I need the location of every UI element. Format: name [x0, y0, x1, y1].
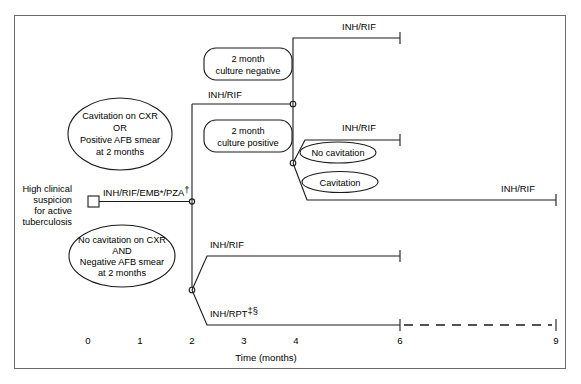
oval-cavitation-label: Cavitation — [320, 178, 361, 188]
axis-tick-1: 1 — [137, 335, 142, 346]
branch-lower-inh-rif-line — [192, 256, 400, 290]
branch-culture-negative-regimen-label: INH/RIF — [342, 21, 376, 32]
axis-title: Time (months) — [235, 352, 296, 363]
oval2-line2: AND — [112, 246, 132, 256]
upper-trunk-regimen-label: INH/RIF — [208, 89, 242, 100]
box-culture-negative-line1: 2 month — [231, 54, 264, 64]
branch-no-cavitation-regimen-label: INH/RIF — [342, 122, 376, 133]
initial-phase-regimen-label: INH/RIF/EMB*/PZA† — [103, 184, 189, 199]
start-label-line3: for active — [34, 206, 72, 216]
branch-lower-inh-rif-regimen-label: INH/RIF — [210, 239, 244, 250]
decision-oval-cavitation-positive-smear — [68, 98, 172, 170]
start-label-line4: tuberculosis — [22, 217, 72, 227]
box-culture-positive-line2: culture positive — [217, 138, 278, 148]
branch-cavitation-regimen-label: INH/RIF — [501, 183, 535, 194]
oval2-line3: Negative AFB smear — [80, 257, 164, 267]
oval2-line4: at 2 months — [98, 268, 146, 278]
branch-culture-negative-line — [293, 38, 400, 104]
start-square-marker — [88, 196, 99, 207]
oval1-line3: Positive AFB smear — [80, 135, 160, 145]
oval-no-cavitation-label: No cavitation — [311, 148, 364, 158]
start-label-line2: suspicion — [33, 195, 72, 205]
figure-page: High clinical suspicion for active tuber… — [0, 0, 581, 384]
axis-tick-6: 6 — [397, 335, 402, 346]
branch-lower-inh-rpt-regimen-label: INH/RPT‡§ — [210, 305, 258, 320]
axis-tick-2: 2 — [189, 335, 194, 346]
oval1-line4: at 2 months — [96, 147, 144, 157]
box-culture-negative-line2: culture negative — [216, 66, 281, 76]
oval2-line1: No cavitation on CXR — [78, 235, 166, 245]
box-culture-positive-line1: 2 month — [231, 126, 264, 136]
treatment-flowchart: High clinical suspicion for active tuber… — [0, 0, 581, 384]
axis-tick-4: 4 — [293, 335, 299, 346]
oval1-line1: Cavitation on CXR — [82, 111, 158, 121]
axis-tick-3: 3 — [241, 335, 246, 346]
oval1-line2: OR — [113, 123, 127, 133]
axis-tick-9: 9 — [553, 335, 558, 346]
start-label-line1: High clinical — [22, 184, 72, 194]
axis-tick-0: 0 — [85, 335, 90, 346]
